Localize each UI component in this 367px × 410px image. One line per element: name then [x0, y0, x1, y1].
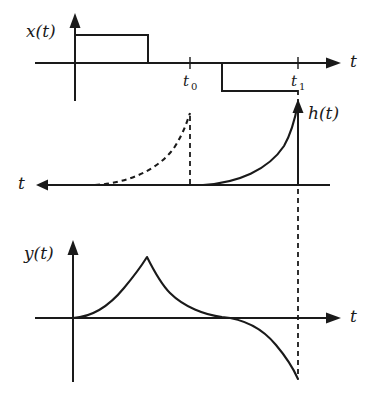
impulse-axis-arrowhead-left	[36, 180, 48, 191]
tick-label-t0-subscript: 0	[191, 81, 197, 92]
impulse-signal-label: h(t)	[308, 103, 339, 123]
output-axis-arrowhead	[326, 313, 341, 324]
convolution-figure: x(t) t t 0 t 1	[0, 0, 367, 410]
impulse-response-solid-copy	[203, 103, 298, 185]
impulse-panel: t h(t)	[18, 99, 339, 193]
tick-label-t1-base: t	[291, 72, 298, 90]
input-axis-arrowhead	[326, 58, 341, 69]
input-negative-step	[222, 63, 298, 91]
impulse-arrow-head	[293, 99, 304, 113]
input-value-axis-arrowhead	[70, 13, 81, 28]
tick-label-t0-base: t	[183, 72, 190, 90]
impulse-axis-label: t	[18, 173, 25, 193]
output-axis-label: t	[350, 306, 357, 326]
input-panel: x(t) t t 0 t 1	[26, 13, 357, 101]
figure-canvas: x(t) t t 0 t 1	[0, 0, 367, 410]
impulse-response-dashed-copy	[95, 113, 190, 185]
tick-label-t0: t 0	[183, 72, 197, 92]
input-axis-label: t	[350, 51, 357, 71]
tick-label-t1-subscript: 1	[299, 81, 305, 92]
output-signal-label: y(t)	[23, 243, 54, 263]
input-positive-pulse	[75, 35, 148, 63]
output-value-axis-arrowhead	[68, 240, 79, 255]
output-panel: y(t) t	[23, 240, 357, 382]
tick-label-t1: t 1	[291, 72, 305, 92]
input-signal-label: x(t)	[26, 21, 56, 41]
